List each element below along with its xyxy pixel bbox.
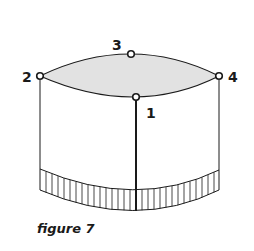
point-label-3: 3 bbox=[112, 37, 122, 53]
point-3-marker bbox=[128, 51, 135, 58]
point-label-2: 2 bbox=[22, 69, 32, 85]
point-2-marker bbox=[37, 73, 44, 80]
point-label-4: 4 bbox=[228, 69, 238, 85]
rib-band-bottom-edge bbox=[40, 190, 219, 211]
cylinder-diagram: 1 2 3 4 figure 7 bbox=[0, 0, 254, 251]
point-4-marker bbox=[216, 73, 223, 80]
ribbing-lines bbox=[46, 172, 214, 211]
point-label-1: 1 bbox=[146, 105, 156, 121]
point-1-marker bbox=[133, 94, 140, 101]
rib-band-top-edge bbox=[40, 169, 219, 190]
top-opening bbox=[40, 54, 219, 97]
figure-caption: figure 7 bbox=[37, 221, 96, 236]
